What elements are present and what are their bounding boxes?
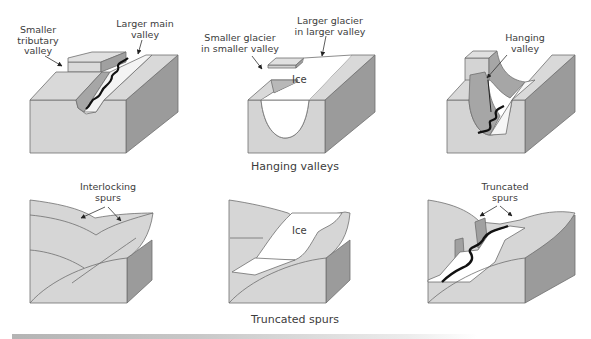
caption-hanging-valleys: Hanging valleys bbox=[230, 160, 360, 173]
panel-truncated-spurs-glaciated bbox=[229, 200, 350, 303]
label-smaller-tributary-valley: Smaller tributary valley bbox=[8, 25, 68, 57]
label-larger-main-valley: Larger main valley bbox=[110, 19, 180, 40]
label-larger-glacier: Larger glacier in larger valley bbox=[290, 16, 370, 37]
panel-hanging-valley-after bbox=[447, 51, 575, 153]
label-smaller-glacier: Smaller glacier in smaller valley bbox=[200, 33, 280, 54]
bottom-rule bbox=[12, 334, 477, 339]
label-hanging-valley: Hanging valley bbox=[500, 33, 550, 54]
label-ice-hanging: Ice bbox=[292, 74, 307, 85]
panel-truncated-spurs-after bbox=[428, 200, 575, 303]
label-interlocking-spurs: Interlocking spurs bbox=[78, 182, 138, 203]
label-ice-spurs: Ice bbox=[292, 225, 307, 236]
panel-hanging-valley-before bbox=[30, 52, 178, 153]
label-truncated-spurs: Truncated spurs bbox=[480, 182, 530, 203]
panel-hanging-valley-glaciated bbox=[248, 55, 375, 153]
panel-interlocking-spurs bbox=[30, 200, 153, 303]
caption-truncated-spurs: Truncated spurs bbox=[230, 313, 360, 326]
